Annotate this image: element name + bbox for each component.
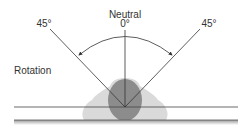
rotation-arc-arrow [79, 37, 172, 56]
left-45-line [50, 29, 125, 107]
zero-degree-label: 0° [120, 18, 130, 29]
rotation-label: Rotation [14, 65, 51, 76]
ground-shadow [14, 120, 238, 125]
rotation-diagram: Neutral 0° 45° 45° Rotation [0, 0, 245, 131]
left-45-label: 45° [36, 18, 51, 29]
right-45-label: 45° [201, 18, 216, 29]
right-45-line [125, 29, 200, 107]
